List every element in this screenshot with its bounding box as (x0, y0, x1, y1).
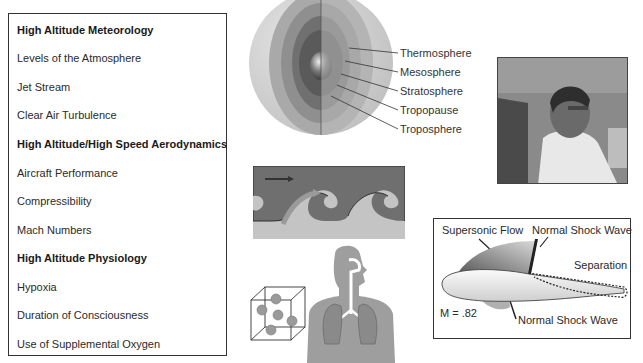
topic-compressibility: Compressibility (17, 195, 92, 207)
label-stratosphere: Stratosphere (400, 85, 463, 97)
topic-aircraft-performance: Aircraft Performance (17, 167, 118, 179)
label-tropopause: Tropopause (400, 104, 458, 116)
pilot-photo (497, 57, 628, 184)
topic-duration-of-consciousness: Duration of Consciousness (17, 309, 148, 321)
label-mach-number: M = .82 (440, 307, 477, 319)
topic-list-box: High Altitude Meteorology Levels of the … (8, 13, 227, 356)
label-thermosphere: Thermosphere (400, 47, 472, 59)
label-mesosphere: Mesosphere (400, 66, 461, 78)
label-normal-shock-wave-bottom: Normal Shock Wave (518, 314, 618, 326)
topic-heading-meteorology: High Altitude Meteorology (17, 24, 153, 36)
label-separation: Separation (574, 259, 627, 271)
topic-jet-stream: Jet Stream (17, 81, 70, 93)
topic-hypoxia: Hypoxia (17, 281, 57, 293)
gas-cube-illustration (250, 286, 308, 342)
topic-mach-numbers: Mach Numbers (17, 224, 92, 236)
respiratory-system-illustration (305, 244, 397, 363)
topic-heading-physiology: High Altitude Physiology (17, 252, 147, 264)
label-normal-shock-wave-top: Normal Shock Wave (532, 224, 632, 236)
turbulence-wave-illustration (253, 166, 405, 239)
topic-supplemental-oxygen: Use of Supplemental Oxygen (17, 338, 160, 350)
topic-levels-of-atmosphere: Levels of the Atmosphere (17, 52, 141, 64)
label-troposphere: Troposphere (400, 123, 462, 135)
label-supersonic-flow: Supersonic Flow (442, 224, 523, 236)
topic-clear-air-turbulence: Clear Air Turbulence (17, 109, 117, 121)
airfoil-shockwave-diagram: Supersonic Flow Normal Shock Wave Separa… (433, 218, 631, 339)
topic-heading-aerodynamics: High Altitude/High Speed Aerodynamics (17, 138, 227, 150)
atmosphere-globe-illustration (245, 0, 405, 140)
